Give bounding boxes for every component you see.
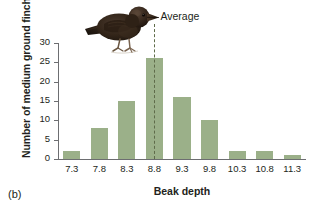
y-tick: 25 <box>54 62 58 63</box>
bar <box>173 97 190 159</box>
y-tick: 5 <box>54 140 58 141</box>
x-tick-label: 8.8 <box>148 163 161 174</box>
y-tick-label: 5 <box>45 133 50 144</box>
x-tick-label: 7.8 <box>93 163 106 174</box>
x-tick-label: 8.3 <box>120 163 133 174</box>
y-tick-label: 30 <box>39 36 50 47</box>
bar <box>63 151 80 159</box>
y-tick-label: 15 <box>39 94 50 105</box>
bar <box>284 155 301 159</box>
x-tick-label: 10.8 <box>255 163 274 174</box>
x-tick-label: 11.3 <box>283 163 301 174</box>
y-tick: 30 <box>54 43 58 44</box>
plot-area: 051015202530 Average 7.37.88.38.89.39.81… <box>58 43 306 159</box>
panel-letter: (b) <box>8 188 21 200</box>
y-axis-title: Number of medium ground finches <box>20 0 32 158</box>
y-tick-label: 20 <box>39 75 50 86</box>
y-tick-label: 10 <box>39 113 50 124</box>
y-tick: 15 <box>54 101 58 102</box>
y-tick: 0 <box>54 159 58 160</box>
x-axis-title: Beak depth <box>58 185 306 197</box>
y-axis-line <box>58 43 59 159</box>
y-tick-label: 25 <box>39 55 50 66</box>
y-tick-label: 0 <box>45 152 50 163</box>
bar <box>229 151 246 159</box>
bar <box>91 128 108 159</box>
y-tick: 20 <box>54 82 58 83</box>
average-label: Average <box>160 10 199 22</box>
bar <box>118 101 135 159</box>
y-tick: 10 <box>54 120 58 121</box>
x-tick-label: 9.8 <box>203 163 216 174</box>
x-tick-label: 9.3 <box>175 163 188 174</box>
x-tick-label: 10.3 <box>228 163 247 174</box>
x-tick-label: 7.3 <box>65 163 78 174</box>
bar <box>256 151 273 159</box>
figure-panel-b: Number of medium ground finches (b) <box>0 0 322 218</box>
average-line <box>154 24 155 159</box>
x-axis-line <box>58 159 306 160</box>
bar <box>201 120 218 159</box>
